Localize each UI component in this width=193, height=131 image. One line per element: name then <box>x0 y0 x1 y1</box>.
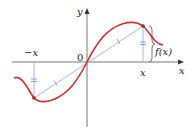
odd-function-diagram: y 0 x x −x f(x) <box>0 0 193 131</box>
neg-x-label: −x <box>24 47 38 58</box>
y-axis-arrow-icon <box>85 8 90 14</box>
fx-label: f(x) <box>154 46 172 57</box>
y-axis-label: y <box>76 6 83 17</box>
x-axis-arrow-icon <box>178 60 184 65</box>
x-axis-label: x <box>179 65 185 76</box>
point-neg-x <box>32 96 36 100</box>
point-pos-x <box>141 24 145 28</box>
pos-x-label: x <box>140 67 146 78</box>
origin-label: 0 <box>77 52 83 63</box>
